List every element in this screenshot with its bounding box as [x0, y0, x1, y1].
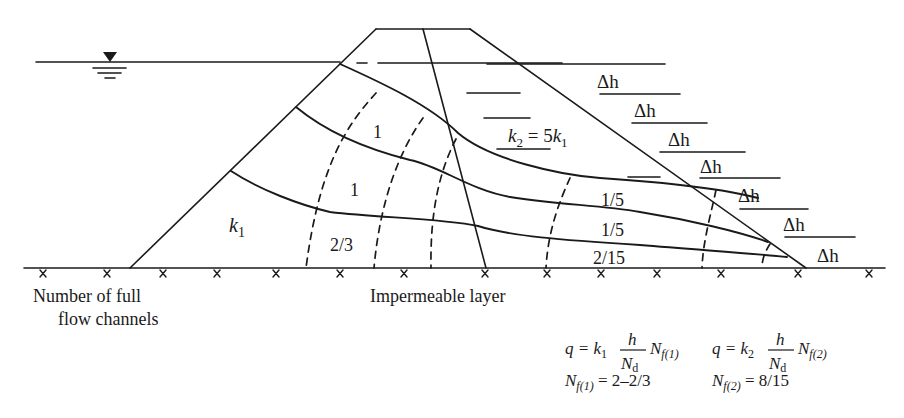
caption-full-flow-channels-line1: Number of full	[33, 286, 141, 306]
caption-impermeable-layer: Impermeable layer	[370, 286, 505, 306]
svg-text:q = k2: q = k2	[712, 339, 754, 361]
svg-text:Nf(1): Nf(1)	[649, 339, 679, 361]
flow-channel-value: 1/5	[601, 220, 624, 240]
delta-h-label: Δh	[783, 214, 805, 235]
nf2-equation: Nf(2) = 8/15	[711, 371, 789, 393]
zone1-k-label: k1	[229, 214, 245, 240]
nf1-equation: Nf(1) = 2–2/3	[564, 371, 650, 393]
equipotential-lines	[306, 93, 770, 268]
caption-full-flow-channels-line2: flow channels	[58, 309, 158, 329]
flow-net-diagram: k1 k2 = 5k1 1 1 2/3 1/5 1/5 2/15 Δh Δh Δ…	[0, 0, 904, 418]
water-level-symbol-icon	[93, 52, 126, 78]
delta-h-label: Δh	[634, 100, 656, 121]
base-hatch-crosses	[40, 270, 872, 277]
svg-text:h: h	[628, 330, 637, 349]
flow-channel-value: 2/3	[330, 235, 353, 255]
flow-channel-value: 1	[350, 180, 359, 200]
svg-text:q = k1: q = k1	[565, 339, 607, 361]
delta-h-label: Δh	[668, 129, 690, 150]
discharge-equation-zone2: q = k2 h Nd Nf(2)	[712, 330, 827, 375]
flow-channel-count-equations: Nf(1) = 2–2/3 Nf(2) = 8/15	[564, 371, 789, 393]
diagram-canvas: k1 k2 = 5k1 1 1 2/3 1/5 1/5 2/15 Δh Δh Δ…	[0, 0, 904, 418]
delta-h-label: Δh	[817, 245, 839, 266]
delta-h-label: Δh	[738, 185, 760, 206]
flow-channel-value: 1	[373, 122, 382, 142]
zone2-k-relation: k2 = 5k1	[508, 125, 568, 150]
upstream-water-surface	[36, 62, 665, 64]
discharge-equation-zone1: q = k1 h Nd Nf(1)	[565, 330, 679, 375]
svg-text:Nf(2): Nf(2)	[797, 339, 827, 361]
delta-h-label: Δh	[700, 156, 722, 177]
svg-text:h: h	[776, 330, 785, 349]
flow-channel-value: 1/5	[601, 190, 624, 210]
delta-h-label: Δh	[597, 71, 619, 92]
flow-channel-value: 2/15	[593, 248, 625, 268]
